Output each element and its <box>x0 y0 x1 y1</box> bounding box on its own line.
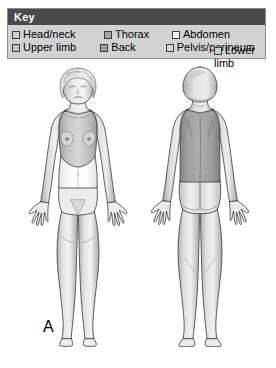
swatch-thorax <box>104 31 112 39</box>
key-body: Head/neck Thorax Abdomen Upper limb <box>8 25 265 58</box>
key-row-top: Head/neck Thorax Abdomen <box>12 28 261 41</box>
key-label-upper-limb: Upper limb <box>23 41 76 54</box>
swatch-pelvis-perineum <box>166 44 174 52</box>
figure-label-a: A <box>43 318 54 336</box>
swatch-head-neck <box>12 31 20 39</box>
key-legend-box: Key Head/neck Thorax Abdomen <box>7 8 266 59</box>
foot-left-a <box>60 339 73 346</box>
key-label-lower-limb-line1: Lower <box>225 44 255 57</box>
key-item-lower-limb-line1: Lower <box>214 44 260 57</box>
hand-left-b <box>151 201 170 225</box>
nipple-left-a <box>65 137 68 140</box>
key-item-abdomen[interactable]: Abdomen <box>172 28 230 41</box>
hand-right-a <box>108 202 127 226</box>
figure-a-anterior: A <box>18 62 138 342</box>
key-label-back: Back <box>111 41 135 54</box>
nipple-right-a <box>87 137 90 140</box>
key-label-head-neck: Head/neck <box>23 28 76 41</box>
region-lower-limb-left-a <box>57 210 77 339</box>
foot-left-b <box>179 339 195 347</box>
figure-b-svg <box>140 62 260 347</box>
figure-b-posterior: B <box>140 62 260 342</box>
figures-area: A <box>0 62 276 368</box>
key-item-head-neck[interactable]: Head/neck <box>12 28 98 41</box>
key-title: Key <box>8 9 265 25</box>
swatch-abdomen <box>172 31 180 39</box>
region-lower-limb-left-b <box>178 208 199 339</box>
swatch-back <box>100 44 108 52</box>
hand-right-b <box>230 201 249 225</box>
key-label-thorax: Thorax <box>115 28 149 41</box>
anatomical-regions-panel: Key Head/neck Thorax Abdomen <box>0 0 276 368</box>
foot-right-b <box>205 339 221 347</box>
key-item-upper-limb[interactable]: Upper limb <box>12 41 94 54</box>
figure-a-svg <box>18 62 138 347</box>
region-lower-limb-right-a <box>79 210 99 339</box>
key-label-abdomen: Abdomen <box>183 28 230 41</box>
swatch-upper-limb <box>12 44 20 52</box>
swatch-lower-limb <box>214 47 222 55</box>
region-lower-limb-right-b <box>201 208 222 339</box>
key-item-thorax[interactable]: Thorax <box>104 28 166 41</box>
foot-right-a <box>83 339 96 346</box>
hand-left-a <box>29 202 48 226</box>
key-item-back[interactable]: Back <box>100 41 159 54</box>
